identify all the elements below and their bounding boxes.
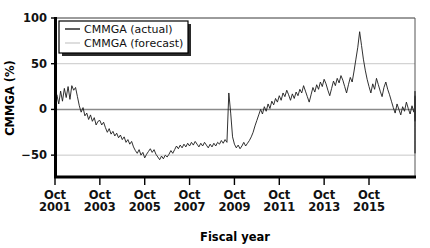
- x-axis-title: Fiscal year: [200, 230, 270, 244]
- x-tick-label-year-2003: 2003: [84, 200, 116, 214]
- x-tick-label-year-2005: 2005: [129, 200, 161, 214]
- y-axis-title: CMMGA (%): [3, 60, 17, 136]
- legend: CMMGA (actual)CMMGA (forecast): [59, 21, 191, 56]
- x-tick-label-year-2007: 2007: [174, 200, 206, 214]
- x-tick-label-year-2009: 2009: [218, 200, 250, 214]
- y-tick-label-0: 0: [39, 102, 47, 116]
- x-tick-label-year-2015: 2015: [353, 200, 385, 214]
- y-tick-label--50: −50: [21, 148, 47, 162]
- cmmga-line-chart: 100500−50 Oct2001Oct2003Oct2005Oct2007Oc…: [0, 0, 430, 248]
- x-tick-label-year-2001: 2001: [39, 200, 71, 214]
- y-tick-label-100: 100: [23, 11, 47, 25]
- legend-label-0: CMMGA (actual): [84, 23, 173, 36]
- chart-container: 100500−50 Oct2001Oct2003Oct2005Oct2007Oc…: [0, 0, 430, 248]
- legend-label-1: CMMGA (forecast): [84, 37, 183, 50]
- x-tick-label-year-2011: 2011: [263, 200, 295, 214]
- y-tick-label-50: 50: [31, 57, 47, 71]
- x-axis-ticks: Oct2001Oct2003Oct2005Oct2007Oct2009Oct20…: [39, 178, 385, 214]
- y-axis-ticks: 100500−50: [21, 11, 55, 162]
- x-tick-label-year-2013: 2013: [308, 200, 340, 214]
